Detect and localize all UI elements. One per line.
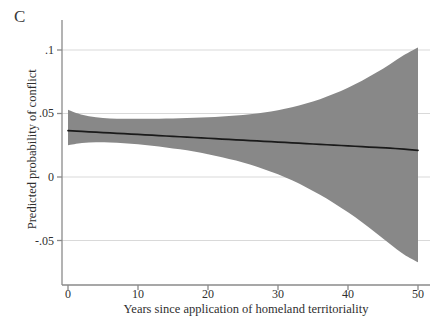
- plot-area: [0, 0, 444, 327]
- confidence-interval-band: [68, 47, 418, 262]
- chart-figure: C Predicted probability of conflict Year…: [0, 0, 444, 327]
